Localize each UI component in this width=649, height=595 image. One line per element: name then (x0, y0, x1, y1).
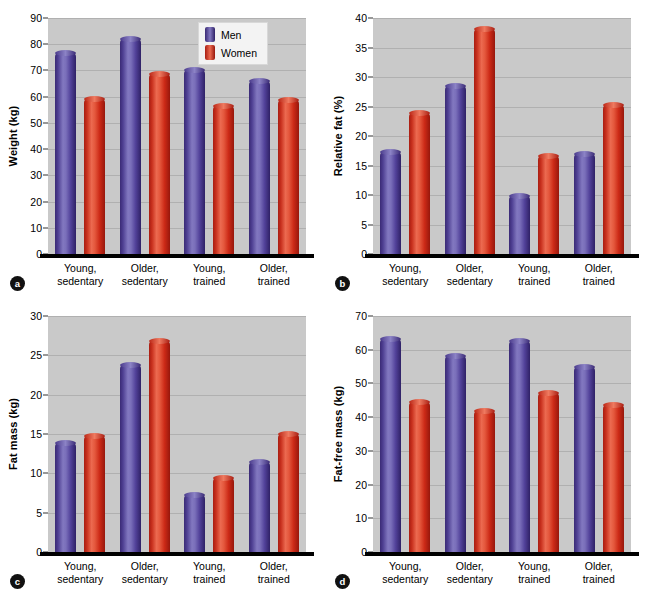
bar-women (603, 105, 624, 254)
panel-letter-c: c (10, 574, 25, 589)
x-tick-label-line1: Young, (48, 262, 113, 275)
bar-women (84, 99, 105, 254)
x-tick-label: Young,sedentary (373, 262, 438, 288)
bar-group (502, 316, 567, 552)
x-tick-label: Older,trained (567, 262, 632, 288)
bar-women (149, 74, 170, 254)
y-tick-label: 20 (355, 479, 367, 491)
x-tick-label-line1: Older, (113, 262, 178, 275)
bar-cap (149, 338, 170, 344)
bar-cap (380, 149, 401, 155)
bar-women (84, 436, 105, 552)
plot-area (48, 316, 306, 552)
bar-cap (603, 402, 624, 408)
bar-group (48, 18, 113, 254)
x-tick-label: Older,sedentary (438, 262, 503, 288)
bar-men (445, 86, 466, 254)
bar-cap (184, 492, 205, 498)
bar-women (474, 411, 495, 552)
bar-group (373, 18, 438, 254)
x-tick-label-line2: sedentary (373, 573, 438, 586)
bar-group (48, 316, 113, 552)
bar-cap (84, 96, 105, 102)
x-tick-label-line1: Older, (113, 560, 178, 573)
bar-group (242, 316, 307, 552)
bar-cap (55, 50, 76, 56)
x-tick-label-line1: Young, (48, 560, 113, 573)
bar-women (409, 113, 430, 254)
y-tick-label: 20 (355, 130, 367, 142)
x-tick-label-line1: Young, (177, 560, 242, 573)
bar-women (278, 100, 299, 254)
bar-group (567, 316, 632, 552)
y-tick-label: 90 (30, 12, 42, 24)
x-tick-label-line1: Older, (438, 262, 503, 275)
bar-group (373, 316, 438, 552)
legend-swatch-women (205, 45, 215, 60)
x-tick-label-line1: Young, (502, 262, 567, 275)
y-tick-label: 5 (36, 507, 42, 519)
bar-cap (213, 475, 234, 481)
bar-men (380, 339, 401, 552)
bar-cap (603, 102, 624, 108)
y-tick-label: 15 (355, 160, 367, 172)
bar-cap (538, 153, 559, 159)
panel-a: Weight (kg)0102030405060708090Young,sede… (0, 0, 325, 298)
bar-cap (509, 338, 530, 344)
y-tick-label: 25 (355, 101, 367, 113)
y-tick-label: 30 (30, 310, 42, 322)
x-tick-label-line1: Young, (177, 262, 242, 275)
y-tick-label: 30 (355, 445, 367, 457)
x-tick-label: Young,trained (502, 560, 567, 586)
x-tick-label-line2: sedentary (113, 275, 178, 288)
bar-men (184, 495, 205, 552)
x-tick-label-line2: trained (502, 573, 567, 586)
y-tick-label: 30 (355, 71, 367, 83)
x-tick-label-line2: trained (567, 573, 632, 586)
x-tick-label: Young,trained (177, 560, 242, 586)
x-tick-label-line1: Older, (438, 560, 503, 573)
bar-men (445, 356, 466, 552)
x-tick-label-line1: Young, (373, 560, 438, 573)
y-axis-ticks: 0510152025303540 (339, 18, 373, 254)
x-tick-label-line2: sedentary (438, 275, 503, 288)
bar-group (438, 18, 503, 254)
x-tick-label: Young,sedentary (48, 262, 113, 288)
bar-women (409, 402, 430, 552)
panel-letter-d: d (335, 574, 350, 589)
bar-women (474, 29, 495, 254)
x-tick-label-line1: Older, (567, 262, 632, 275)
x-tick-label-line1: Young, (502, 560, 567, 573)
x-axis-baseline (365, 254, 639, 258)
bar-group (567, 18, 632, 254)
bar-men (55, 443, 76, 552)
bar-cap (120, 362, 141, 368)
bar-men (574, 154, 595, 254)
x-tick-label-line2: sedentary (438, 573, 503, 586)
bar-group (177, 316, 242, 552)
bar-women (213, 478, 234, 552)
bar-cap (278, 97, 299, 103)
bar-cap (509, 193, 530, 199)
figure-panel-grid: Weight (kg)0102030405060708090Young,sede… (0, 0, 649, 595)
x-tick-label: Young,sedentary (373, 560, 438, 586)
bar-men (380, 152, 401, 254)
y-axis-ticks: 0102030405060708090 (14, 18, 48, 254)
x-tick-label-line2: sedentary (48, 275, 113, 288)
legend-label-women: Women (221, 47, 257, 59)
y-tick-label: 20 (30, 389, 42, 401)
y-tick-label: 25 (30, 349, 42, 361)
bar-women (538, 393, 559, 552)
bar-men (249, 81, 270, 254)
y-tick-label: 15 (30, 428, 42, 440)
bar-cap (278, 431, 299, 437)
bar-men (509, 196, 530, 254)
bar-group (502, 18, 567, 254)
panel-letter-b: b (335, 276, 350, 291)
y-tick-label: 50 (355, 377, 367, 389)
y-tick-label: 40 (30, 143, 42, 155)
x-axis-baseline (365, 552, 639, 556)
bar-cap (538, 390, 559, 396)
x-tick-label-line2: sedentary (48, 573, 113, 586)
bar-cap (574, 364, 595, 370)
